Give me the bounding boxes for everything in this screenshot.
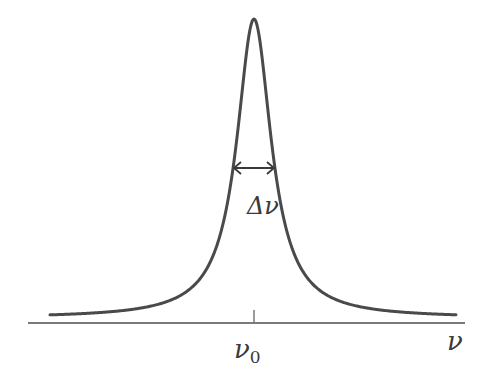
linewidth-label: Δν xyxy=(246,192,279,220)
center-frequency-symbol: ν xyxy=(234,334,250,364)
lorentzian-curve xyxy=(50,19,456,315)
center-frequency-subscript: 0 xyxy=(250,347,261,367)
linewidth-arrow xyxy=(234,162,274,174)
frequency-axis-label: ν xyxy=(447,326,463,356)
center-frequency-label: ν0 xyxy=(234,334,261,367)
lorentzian-figure: Δν ν0 ν xyxy=(0,0,494,383)
